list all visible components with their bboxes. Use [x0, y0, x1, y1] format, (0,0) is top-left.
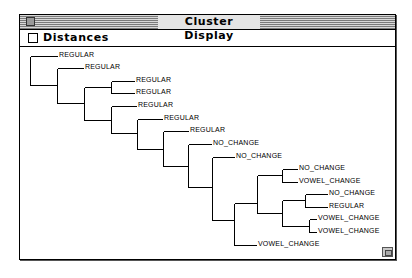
leaf-label: REGULAR [85, 63, 120, 71]
dendrogram-lines [0, 1, 412, 278]
leaf-label: REGULAR [59, 51, 94, 59]
leaf-label: VOWEL_CHANGE [318, 214, 380, 222]
dendrogram-area: REGULARREGULARREGULARREGULARREGULARREGUL… [20, 47, 395, 259]
leaf-label: REGULAR [190, 126, 225, 134]
leaf-label: VOWEL_CHANGE [299, 177, 361, 185]
cluster-display-window: Cluster Display Distances [19, 14, 396, 260]
leaf-label: NO_CHANGE [329, 189, 375, 197]
leaf-label: VOWEL_CHANGE [318, 227, 380, 235]
leaf-label: NO_CHANGE [299, 164, 345, 172]
leaf-label: REGULAR [164, 114, 199, 122]
leaf-label: REGULAR [329, 202, 364, 210]
leaf-label: NO_CHANGE [236, 152, 282, 160]
leaf-label: REGULAR [138, 101, 173, 109]
leaf-label: VOWEL_CHANGE [258, 240, 320, 248]
leaf-label: REGULAR [136, 76, 171, 84]
leaf-label: REGULAR [136, 88, 171, 96]
leaf-label: NO_CHANGE [213, 139, 259, 147]
resize-box-icon[interactable] [382, 247, 393, 257]
